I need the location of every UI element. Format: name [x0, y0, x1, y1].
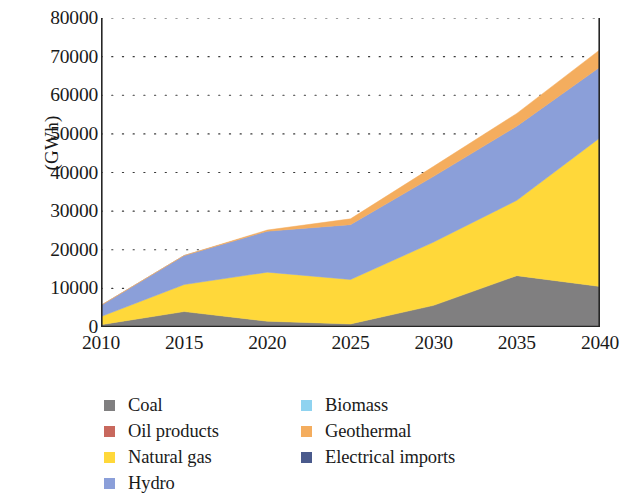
- y-tick-label: 60000: [20, 85, 98, 105]
- y-tick-label: 50000: [20, 124, 98, 144]
- x-axis-tick-labels: 2010201520202025203020352040: [101, 333, 600, 363]
- legend-swatch-icon: [301, 400, 312, 411]
- legend-item-oil-products[interactable]: Oil products: [104, 418, 219, 444]
- legend-item-hydro[interactable]: Hydro: [104, 470, 219, 496]
- legend-item-biomass[interactable]: Biomass: [301, 392, 455, 418]
- legend-swatch-icon: [301, 426, 312, 437]
- legend-swatch-icon: [301, 452, 312, 463]
- legend-item-label: Geothermal: [325, 422, 411, 441]
- x-tick-label: 2035: [482, 333, 552, 353]
- x-tick-label: 2020: [232, 333, 302, 353]
- legend-column-left: CoalOil productsNatural gasHydro: [104, 392, 219, 496]
- y-tick-label: 70000: [20, 47, 98, 67]
- x-tick-label: 2040: [565, 333, 624, 353]
- x-tick-label: 2030: [399, 333, 469, 353]
- legend-item-label: Biomass: [325, 396, 388, 415]
- y-tick-label: 30000: [20, 201, 98, 221]
- legend-item-label: Natural gas: [128, 448, 212, 467]
- legend-swatch-icon: [104, 478, 115, 489]
- x-tick-label: 2010: [66, 333, 136, 353]
- y-tick-label: 40000: [20, 163, 98, 183]
- legend-item-label: Hydro: [128, 474, 175, 493]
- y-tick-label: 80000: [20, 8, 98, 28]
- plot-area: [101, 18, 600, 327]
- y-axis-tick-labels: 0100002000030000400005000060000700008000…: [12, 0, 98, 345]
- legend-swatch-icon: [104, 426, 115, 437]
- legend-item-label: Electrical imports: [325, 448, 455, 467]
- legend-item-geothermal[interactable]: Geothermal: [301, 418, 455, 444]
- legend-item-electrical-imports[interactable]: Electrical imports: [301, 444, 455, 470]
- legend-item-natural-gas[interactable]: Natural gas: [104, 444, 219, 470]
- y-tick-label: 10000: [20, 278, 98, 298]
- x-tick-label: 2015: [149, 333, 219, 353]
- legend-column-right: BiomassGeothermalElectrical imports: [301, 392, 455, 470]
- legend-item-coal[interactable]: Coal: [104, 392, 219, 418]
- legend-swatch-icon: [104, 452, 115, 463]
- legend-swatch-icon: [104, 400, 115, 411]
- legend-item-label: Coal: [128, 396, 163, 415]
- y-tick-label: 20000: [20, 240, 98, 260]
- chart-canvas: [101, 18, 600, 327]
- legend-item-label: Oil products: [128, 422, 219, 441]
- x-tick-label: 2025: [316, 333, 386, 353]
